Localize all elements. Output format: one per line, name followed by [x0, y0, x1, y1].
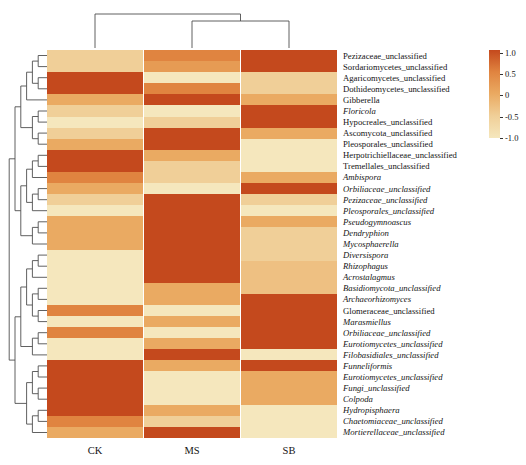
heatmap-cell [241, 105, 337, 117]
heatmap-cell [47, 261, 143, 273]
heatmap-cell [241, 305, 337, 317]
heatmap-cell [47, 128, 143, 140]
heatmap-cell [47, 327, 143, 339]
column-label: CK [88, 445, 103, 456]
legend-tick-label: -0.5 [505, 113, 518, 121]
row-label: Mortierellaceae_unclassified [343, 427, 445, 437]
row-label: Pleosporales_unclassified [343, 139, 433, 149]
row-label: Mycosphaerella [343, 239, 399, 249]
heatmap-cell [47, 161, 143, 173]
heatmap-cell [144, 261, 240, 273]
heatmap-cell [47, 183, 143, 195]
heatmap-cell [241, 272, 337, 284]
heatmap-cell [241, 383, 337, 395]
row-label: Sordariomycetes_unclassified [343, 62, 447, 72]
heatmap-cell [144, 360, 240, 372]
heatmap-cell [47, 227, 143, 239]
heatmap-cell [144, 283, 240, 295]
heatmap-cell [241, 338, 337, 350]
heatmap-cell [47, 283, 143, 295]
row-label: Orbiliaceae_unclassified [343, 184, 430, 194]
heatmap-cell [47, 105, 143, 117]
heatmap-cell [47, 394, 143, 406]
row-label: Basidiomycota_unclassified [343, 283, 440, 293]
heatmap-cell [144, 294, 240, 306]
heatmap-cell [241, 250, 337, 262]
heatmap-cell [241, 139, 337, 151]
legend-tick-label: -1.0 [505, 134, 518, 142]
row-label: Pezizaceae_unclassified [343, 51, 427, 61]
clustered-heatmap-figure: Pezizaceae_unclassifiedSordariomycetes_u… [0, 0, 526, 465]
heatmap-cell [241, 227, 337, 239]
row-label: Pseudogymnoascus [343, 217, 411, 227]
heatmap-cell [144, 383, 240, 395]
row-label: Herpotrichiellaceae_unclassified [343, 150, 457, 160]
row-label: Funneliformis [343, 361, 392, 371]
heatmap-cell [241, 294, 337, 306]
legend-tick-label: 0.5 [505, 70, 516, 78]
heatmap-cell [144, 139, 240, 151]
heatmap-cell [241, 216, 337, 228]
heatmap-cell [241, 183, 337, 195]
heatmap-cell [144, 72, 240, 84]
row-label: Floricola [343, 106, 376, 116]
heatmap-cell [47, 72, 143, 84]
heatmap-cell [47, 117, 143, 129]
heatmap-cell [144, 94, 240, 106]
heatmap-cell [241, 61, 337, 73]
row-label: Dothideomycetes_unclassified [343, 84, 450, 94]
heatmap-cell [47, 383, 143, 395]
heatmap-cell [144, 61, 240, 73]
heatmap-cell [144, 128, 240, 140]
heatmap-cell [241, 117, 337, 129]
heatmap-cell [144, 172, 240, 184]
row-label: Rhizophagus [343, 261, 388, 271]
row-label: Glomeraceae_unclassified [343, 306, 435, 316]
heatmap-cell [47, 272, 143, 284]
heatmap-cell [47, 360, 143, 372]
heatmap-cell [47, 349, 143, 361]
heatmap-cell [144, 117, 240, 129]
legend-tick-mark [500, 95, 503, 96]
color-legend-bar [489, 50, 500, 138]
row-label: Eurotiomycetes_unclassified [343, 339, 443, 349]
heatmap-cell [241, 283, 337, 295]
heatmap-cell [47, 405, 143, 417]
heatmap-cell [241, 327, 337, 339]
heatmap-cell [47, 427, 143, 439]
heatmap-cell [47, 338, 143, 350]
heatmap-cell [47, 83, 143, 95]
heatmap-cell [144, 194, 240, 206]
heatmap-cell [47, 316, 143, 328]
heatmap-cell [144, 105, 240, 117]
heatmap-cell [47, 416, 143, 428]
row-label: Tremellales_unclassified [343, 161, 430, 171]
heatmap-cell [144, 250, 240, 262]
heatmap-cell [241, 316, 337, 328]
heatmap-cell [47, 150, 143, 162]
row-label: Hypocreales_unclassified [343, 117, 432, 127]
heatmap-cell [144, 316, 240, 328]
heatmap-cell [241, 371, 337, 383]
column-label: MS [184, 445, 199, 456]
heatmap-cell [144, 150, 240, 162]
row-label: Hydropisphaera [343, 405, 400, 415]
heatmap-cell [241, 72, 337, 84]
row-label: Eurotiomycetes_unclassified [343, 372, 443, 382]
heatmap-cell [144, 161, 240, 173]
heatmap-cell [241, 394, 337, 406]
heatmap-cell [241, 427, 337, 439]
legend-tick-mark [500, 138, 503, 139]
legend-tick-label: 1.0 [505, 49, 516, 57]
heatmap-cell [144, 183, 240, 195]
heatmap-cell [241, 172, 337, 184]
heatmap-cell [47, 205, 143, 217]
legend-tick-mark [500, 117, 503, 118]
row-label: Ambispora [343, 172, 381, 182]
heatmap-cell [47, 94, 143, 106]
heatmap-cell [47, 250, 143, 262]
heatmap-cell [241, 83, 337, 95]
heatmap-cell [144, 371, 240, 383]
row-label: Dendryphion [343, 228, 389, 238]
heatmap-cell [144, 394, 240, 406]
